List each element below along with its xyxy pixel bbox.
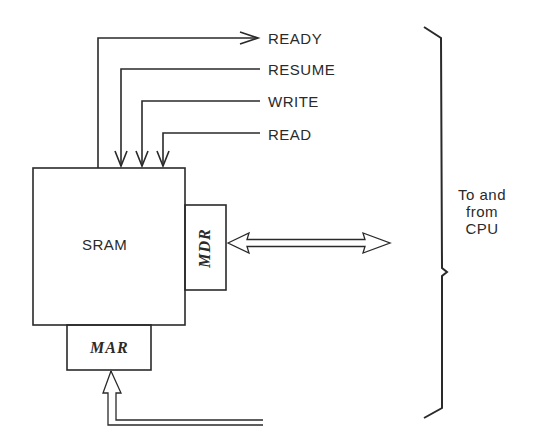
ready-line bbox=[98, 38, 258, 168]
mdr-cpu-bus-arrow-icon bbox=[228, 233, 390, 253]
mar-label: MAR bbox=[90, 340, 129, 356]
ready-signal-label: READY bbox=[268, 31, 322, 46]
read-line bbox=[163, 133, 260, 166]
mar-address-bus-arrow-icon bbox=[103, 371, 263, 425]
sram-label: SRAM bbox=[82, 237, 127, 252]
cpu-label: To and from CPU bbox=[452, 186, 512, 237]
read-signal-label: READ bbox=[268, 127, 312, 142]
mdr-label: MDR bbox=[197, 228, 213, 267]
cpu-label-line-3: CPU bbox=[452, 220, 512, 237]
resume-signal-label: RESUME bbox=[268, 62, 335, 77]
write-signal-label: WRITE bbox=[268, 94, 319, 109]
cpu-brace-icon bbox=[424, 27, 447, 418]
cpu-label-line-1: To and bbox=[452, 186, 512, 203]
cpu-label-line-2: from bbox=[452, 203, 512, 220]
